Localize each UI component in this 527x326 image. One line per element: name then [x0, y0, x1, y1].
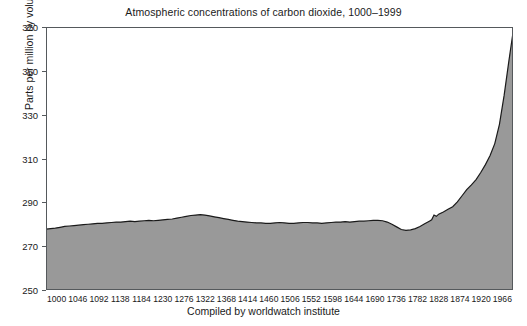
y-tick-label: 270	[2, 241, 38, 252]
co2-area-chart	[46, 27, 513, 290]
y-tick-label: 330	[2, 109, 38, 120]
chart-page: Atmospheric concentrations of carbon dio…	[0, 0, 527, 326]
x-tick-label: 1966	[485, 294, 519, 304]
y-tick-label: 310	[2, 153, 38, 164]
chart-title: Atmospheric concentrations of carbon dio…	[0, 6, 527, 18]
x-axis-title: Compiled by worldwatch institute	[0, 305, 527, 317]
y-axis-ticks: 250270290310330350370	[0, 27, 46, 290]
y-tick-label: 370	[2, 22, 38, 33]
y-tick-label: 250	[2, 285, 38, 296]
y-tick-label: 350	[2, 65, 38, 76]
plot-area	[46, 27, 513, 290]
y-tick-label: 290	[2, 197, 38, 208]
